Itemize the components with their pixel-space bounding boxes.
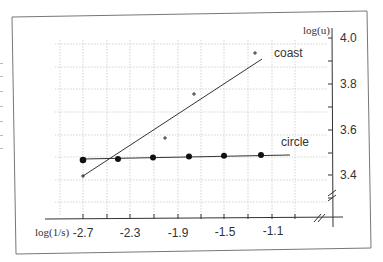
log-log-chart: -2.7 -2.3 -1.9 -1.5 -1.1 4.0 3.8 3.6 3.4… [0,0,383,262]
x-tick-label: -1.1 [263,224,284,238]
circle-label: circle [281,135,309,149]
y-axis-label: log(u) [303,24,330,37]
x-tick-label: -2.7 [73,226,94,240]
x-tick-label: -2.3 [120,226,141,240]
y-tick-label: 3.8 [340,77,357,91]
y-tick-label: 3.6 [340,123,357,137]
y-tick-label: 3.4 [340,168,357,182]
y-tick-label: 4.0 [340,31,357,45]
coast-label: coast [274,46,303,60]
x-tick-label: -1.9 [168,226,189,240]
x-axis-label: log(1/s) [35,226,70,239]
x-tick-label: -1.5 [215,225,236,239]
